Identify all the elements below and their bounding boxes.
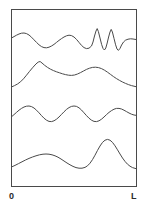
x-axis-start-label: 0: [9, 191, 14, 201]
wave-series-group: [12, 29, 137, 169]
x-axis-end-label: L: [131, 191, 137, 201]
plot-canvas: [0, 0, 147, 209]
curve-3: [12, 106, 137, 122]
curve-1-top: [12, 29, 137, 51]
curve-2: [12, 62, 137, 87]
wave-profiles-figure: 0 L: [0, 0, 147, 209]
curve-4-bottom: [12, 139, 137, 168]
